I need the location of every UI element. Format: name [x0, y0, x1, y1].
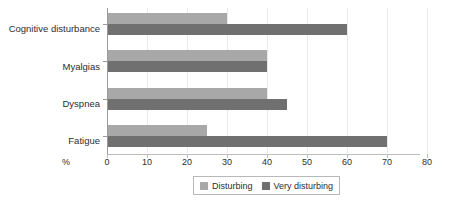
y-axis-tick: [103, 99, 107, 100]
x-axis-line: [107, 154, 420, 155]
gridline: [427, 8, 428, 153]
legend-label-very-disturbing: Very disturbing: [274, 181, 334, 191]
category-label-0: Cognitive disturbance: [9, 24, 100, 34]
x-axis-tick-label: 50: [294, 157, 320, 167]
bar: [107, 88, 267, 99]
x-axis-tick-label: 20: [174, 157, 200, 167]
bar-group: [107, 13, 427, 37]
bar: [107, 125, 207, 136]
x-axis-tick-label: 10: [134, 157, 160, 167]
x-axis-tick-label: 70: [374, 157, 400, 167]
category-label-3: Fatigue: [68, 136, 100, 146]
bar: [107, 99, 287, 110]
legend-swatch-icon-very-disturbing: [262, 182, 270, 190]
bar: [107, 13, 227, 24]
bar: [107, 50, 267, 61]
x-axis-tick-label: 60: [334, 157, 360, 167]
x-axis-unit-label: %: [62, 157, 70, 167]
x-axis-tick-label: 30: [214, 157, 240, 167]
y-axis-tick: [103, 136, 107, 137]
bar-chart: Cognitive disturbance Myalgias Dyspnea F…: [0, 0, 455, 201]
y-axis-tick: [103, 24, 107, 25]
x-axis-tick-label: 40: [254, 157, 280, 167]
x-axis-tick-label: 80: [414, 157, 440, 167]
category-label-1: Myalgias: [63, 62, 101, 72]
bar: [107, 136, 387, 147]
y-axis-tick: [103, 61, 107, 62]
category-label-2: Dyspnea: [63, 99, 101, 109]
bar: [107, 61, 267, 72]
plot-area: [107, 8, 427, 153]
bar: [107, 24, 347, 35]
legend-swatch-icon-disturbing: [200, 182, 208, 190]
x-axis-tick-label: 0: [94, 157, 120, 167]
y-axis-line: [107, 8, 108, 155]
bar-group: [107, 88, 427, 112]
legend-item-disturbing: Disturbing: [200, 181, 253, 191]
bar-group: [107, 125, 427, 149]
category-axis-labels: Cognitive disturbance Myalgias Dyspnea F…: [0, 0, 104, 153]
bar-group: [107, 50, 427, 74]
legend-item-very-disturbing: Very disturbing: [262, 181, 334, 191]
chart-legend: Disturbing Very disturbing: [193, 176, 340, 195]
legend-label-disturbing: Disturbing: [212, 181, 253, 191]
